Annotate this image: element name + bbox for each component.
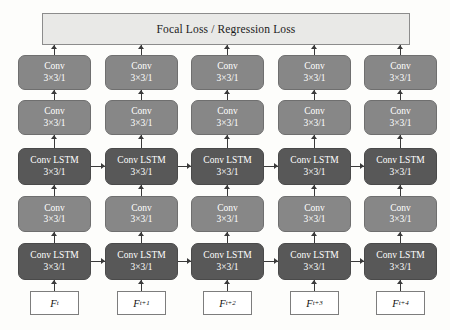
block-kernel: 3×3/1	[389, 73, 411, 84]
block-row-lstm-upper-t3: Conv LSTM3×3/1	[278, 148, 351, 185]
input-box-t3: Ft+3	[290, 291, 339, 315]
conn-conv-to-loss-t4-arrowhead	[397, 45, 403, 49]
block-name: Conv	[390, 61, 411, 72]
conn-conv-to-lstm-upper-t2-arrowhead	[224, 185, 230, 189]
block-row-lstm-upper-t4: Conv LSTM3×3/1	[364, 148, 437, 185]
conn-input-to-lstm-t0-arrowhead	[51, 280, 57, 284]
block-name: Conv	[217, 106, 238, 117]
conn-conv-to-conv-top-t4-arrowhead	[397, 90, 403, 94]
conn-conv-to-lstm-upper-t4-arrowhead	[397, 185, 403, 189]
block-row-lstm-lower-t0: Conv LSTM3×3/1	[18, 243, 91, 280]
conn-lstm-to-conv-upper-t3-arrowhead	[311, 135, 317, 139]
input-subscript: t+2	[226, 299, 236, 307]
block-name: Conv LSTM	[30, 250, 78, 261]
block-name: Conv LSTM	[30, 155, 78, 166]
conn-lstm-to-conv-lower-t2-arrowhead	[224, 232, 230, 236]
block-row-lstm-upper-t1: Conv LSTM3×3/1	[105, 148, 178, 185]
block-kernel: 3×3/1	[43, 214, 65, 225]
block-name: Conv	[131, 106, 152, 117]
conn-conv-to-loss-t1-arrowhead	[138, 45, 144, 49]
conn-recurrent-row-lstm-lower-t2-arrowhead	[274, 258, 278, 264]
block-name: Conv	[131, 203, 152, 214]
block-kernel: 3×3/1	[216, 167, 238, 178]
block-name: Conv LSTM	[376, 250, 424, 261]
block-row-conv-lower-t0: Conv3×3/1	[18, 196, 91, 232]
input-subscript: t	[57, 299, 59, 307]
block-row-conv-lower-t3: Conv3×3/1	[278, 196, 351, 232]
block-kernel: 3×3/1	[130, 214, 152, 225]
conn-conv-to-lstm-upper-t0-arrowhead	[51, 185, 57, 189]
block-kernel: 3×3/1	[216, 262, 238, 273]
block-name: Conv	[304, 106, 325, 117]
conn-conv-to-loss-t3-arrowhead	[311, 45, 317, 49]
block-row-conv-top-t1: Conv3×3/1	[105, 55, 178, 90]
block-kernel: 3×3/1	[130, 73, 152, 84]
conn-input-to-lstm-t1-arrowhead	[138, 280, 144, 284]
conn-lstm-to-conv-upper-t1-arrowhead	[138, 135, 144, 139]
conn-lstm-to-conv-lower-t1-arrowhead	[138, 232, 144, 236]
block-name: Conv LSTM	[203, 155, 251, 166]
conn-lstm-to-conv-upper-t4-arrowhead	[397, 135, 403, 139]
block-row-conv-upper-t1: Conv3×3/1	[105, 100, 178, 135]
conn-recurrent-row-lstm-lower-t0-arrowhead	[101, 258, 105, 264]
block-name: Conv	[390, 203, 411, 214]
block-row-lstm-upper-t0: Conv LSTM3×3/1	[18, 148, 91, 185]
diagram-canvas: Focal Loss / Regression Loss Conv3×3/1Co…	[0, 0, 450, 330]
block-name: Conv LSTM	[376, 155, 424, 166]
block-row-lstm-lower-t3: Conv LSTM3×3/1	[278, 243, 351, 280]
input-subscript: t+4	[399, 299, 409, 307]
block-kernel: 3×3/1	[303, 167, 325, 178]
block-row-conv-upper-t3: Conv3×3/1	[278, 100, 351, 135]
conn-conv-to-loss-t0-arrowhead	[51, 45, 57, 49]
conn-input-to-lstm-t4-arrowhead	[397, 280, 403, 284]
block-kernel: 3×3/1	[130, 167, 152, 178]
block-kernel: 3×3/1	[303, 262, 325, 273]
block-name: Conv	[304, 203, 325, 214]
block-row-lstm-lower-t2: Conv LSTM3×3/1	[191, 243, 264, 280]
block-kernel: 3×3/1	[216, 214, 238, 225]
conn-lstm-to-conv-lower-t3-arrowhead	[311, 232, 317, 236]
conn-conv-to-conv-top-t2-arrowhead	[224, 90, 230, 94]
input-box-t0: Ft	[30, 291, 79, 315]
block-row-lstm-lower-t1: Conv LSTM3×3/1	[105, 243, 178, 280]
block-kernel: 3×3/1	[303, 214, 325, 225]
input-subscript: t+1	[140, 299, 150, 307]
block-row-conv-top-t2: Conv3×3/1	[191, 55, 264, 90]
block-name: Conv	[44, 203, 65, 214]
block-name: Conv LSTM	[117, 155, 165, 166]
input-box-t2: Ft+2	[203, 291, 252, 315]
conn-lstm-to-conv-upper-t0-arrowhead	[51, 135, 57, 139]
block-row-conv-lower-t4: Conv3×3/1	[364, 196, 437, 232]
block-kernel: 3×3/1	[130, 118, 152, 129]
input-subscript: t+3	[313, 299, 323, 307]
conn-recurrent-row-lstm-lower-t3-arrowhead	[360, 258, 364, 264]
block-name: Conv LSTM	[117, 250, 165, 261]
block-row-lstm-lower-t4: Conv LSTM3×3/1	[364, 243, 437, 280]
input-box-t4: Ft+4	[376, 291, 425, 315]
block-name: Conv LSTM	[203, 250, 251, 261]
block-kernel: 3×3/1	[389, 167, 411, 178]
conn-recurrent-row-lstm-upper-t3-arrowhead	[360, 163, 364, 169]
conn-conv-to-conv-top-t3-arrowhead	[311, 90, 317, 94]
input-box-t1: Ft+1	[117, 291, 166, 315]
conn-lstm-to-conv-upper-t2-arrowhead	[224, 135, 230, 139]
block-kernel: 3×3/1	[389, 118, 411, 129]
block-row-conv-top-t3: Conv3×3/1	[278, 55, 351, 90]
conn-lstm-to-conv-lower-t4-arrowhead	[397, 232, 403, 236]
block-row-lstm-upper-t2: Conv LSTM3×3/1	[191, 148, 264, 185]
block-row-conv-top-t0: Conv3×3/1	[18, 55, 91, 90]
block-row-conv-top-t4: Conv3×3/1	[364, 55, 437, 90]
block-name: Conv	[217, 203, 238, 214]
block-name: Conv	[44, 61, 65, 72]
block-name: Conv LSTM	[290, 155, 338, 166]
loss-box: Focal Loss / Regression Loss	[42, 13, 410, 45]
conn-recurrent-row-lstm-lower-t1-arrowhead	[187, 258, 191, 264]
block-kernel: 3×3/1	[389, 214, 411, 225]
block-row-conv-lower-t2: Conv3×3/1	[191, 196, 264, 232]
block-name: Conv	[304, 61, 325, 72]
conn-conv-to-lstm-upper-t1-arrowhead	[138, 185, 144, 189]
conn-recurrent-row-lstm-upper-t1-arrowhead	[187, 163, 191, 169]
block-name: Conv	[131, 61, 152, 72]
loss-label: Focal Loss / Regression Loss	[157, 23, 296, 35]
block-row-conv-lower-t1: Conv3×3/1	[105, 196, 178, 232]
